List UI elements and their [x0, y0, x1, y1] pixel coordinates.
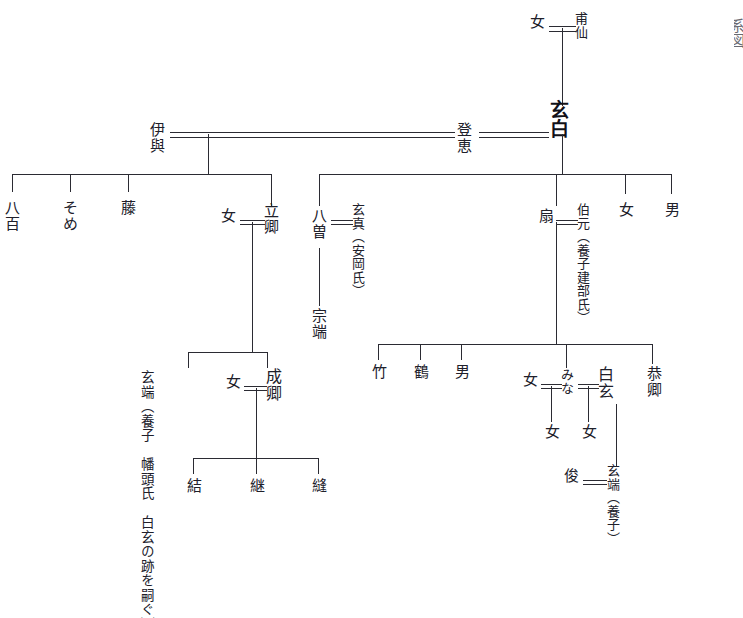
- sibling-stub-fuji: [128, 174, 129, 192]
- person-gentan-adopt: 玄端（養子）: [606, 464, 619, 545]
- sibling-stub-otoko-r1: [671, 174, 672, 194]
- genealogy-chart: 女 甫仙 伊與 登恵 玄白 八百 そめ 藤 女 立卿 八曽 玄真（安岡氏） 宗端…: [0, 0, 743, 618]
- person-hakugen: 白玄: [596, 366, 612, 399]
- descent-line-ritsukyo: [252, 222, 253, 352]
- sibling-stub-tsuru: [420, 344, 421, 360]
- sibling-stub-gentan-note: [188, 352, 189, 368]
- person-mina: みな: [560, 368, 573, 395]
- person-genshin: 玄真（安岡氏）: [351, 203, 364, 298]
- sibling-stub-yao: [12, 174, 13, 192]
- sibling-stub-take: [378, 344, 379, 360]
- person-otoko-r1: 男: [663, 202, 678, 218]
- person-genpaku: 玄白: [548, 100, 567, 138]
- person-yui: 結: [185, 478, 200, 494]
- descent-line-hosen-genpaku: [562, 28, 563, 106]
- sibling-stub-seikyo: [267, 352, 268, 368]
- sibling-stub-ritsukyo: [271, 174, 272, 206]
- sibling-stub-mina-group: [566, 344, 567, 368]
- person-ritsukyo: 立卿: [262, 203, 277, 234]
- person-tsugu: 継: [248, 478, 263, 494]
- person-soutan: 宗端: [310, 308, 325, 339]
- marriage-link-toe-genpaku: [479, 132, 549, 138]
- person-onna-top: 女: [528, 14, 543, 30]
- descent-line-ougi-hakugen: [556, 222, 557, 344]
- marriage-link-shun-gentan: [583, 480, 607, 485]
- sibling-bar-right: [319, 174, 671, 175]
- sibling-stub-ougi: [556, 174, 557, 206]
- edge-caption: 系図: [734, 18, 743, 148]
- descent-line-seikyo: [256, 388, 257, 458]
- sibling-stub-onna-r1: [625, 174, 626, 194]
- person-onna-r1: 女: [617, 202, 632, 218]
- person-otoko-r2: 男: [453, 364, 468, 380]
- sibling-stub-yui: [193, 458, 194, 474]
- person-gentan-note: 玄端（養子 幡頭氏 白玄の跡を嗣ぐ）: [140, 370, 154, 608]
- descent-line-soutan: [319, 248, 320, 306]
- descent-line-toe-genpaku: [562, 134, 563, 174]
- person-hakugen-adopt: 伯元（養子建部氏）: [576, 203, 589, 325]
- person-nui: 縫: [310, 478, 325, 494]
- descent-line-onna-child2: [588, 386, 589, 422]
- person-take: 竹: [370, 364, 385, 380]
- sibling-bar-ritsukyo-children: [188, 352, 268, 353]
- sibling-stub-nui: [318, 458, 319, 474]
- person-seikyo: 成卿: [264, 368, 280, 401]
- sibling-stub-otoko-r2: [461, 344, 462, 360]
- person-onna-child1: 女: [543, 424, 558, 440]
- person-onna-seikyo: 女: [224, 374, 239, 390]
- person-yaso: 八曽: [310, 208, 325, 239]
- person-yao: 八百: [3, 200, 18, 231]
- marriage-link-iyo-toe: [170, 132, 455, 138]
- person-fuji: 藤: [119, 200, 134, 216]
- person-onna-mina: 女: [521, 372, 536, 388]
- person-onna-ritsukyo: 女: [219, 208, 234, 224]
- sibling-bar-left: [12, 174, 272, 175]
- descent-line-onna-child1: [551, 386, 552, 422]
- person-shun: 俊: [562, 468, 577, 484]
- person-toe: 登恵: [455, 122, 470, 153]
- person-kyokyo: 恭卿: [645, 366, 660, 397]
- descent-line-iyo: [208, 134, 209, 174]
- sibling-stub-kyokyo: [652, 344, 653, 364]
- person-tsuru: 鶴: [412, 364, 427, 380]
- sibling-stub-yaso: [319, 174, 320, 206]
- person-hosen: 甫仙: [574, 12, 587, 39]
- person-onna-child2: 女: [580, 424, 595, 440]
- descent-line-hakugen-gentan: [616, 404, 617, 466]
- person-some: そめ: [61, 200, 76, 231]
- sibling-stub-tsugu: [256, 458, 257, 474]
- person-iyo: 伊與: [148, 122, 163, 153]
- person-ougi: 扇: [537, 208, 552, 224]
- sibling-stub-some: [70, 174, 71, 192]
